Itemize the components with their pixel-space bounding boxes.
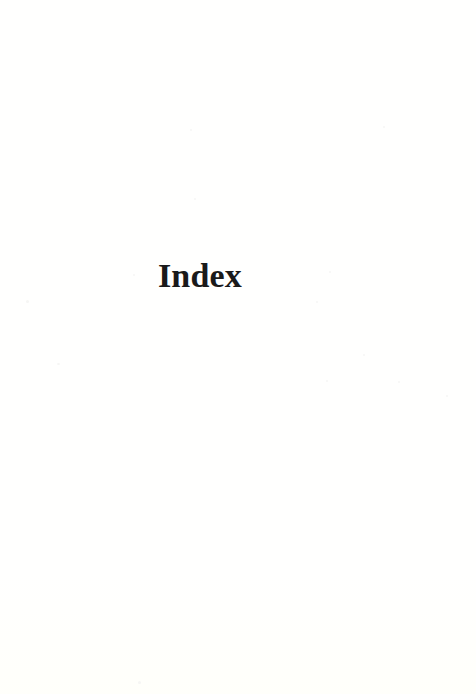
- scan-speck: [194, 198, 196, 200]
- scan-speck: [138, 681, 141, 684]
- page-title: Index: [158, 261, 242, 291]
- scan-speck: [57, 363, 60, 365]
- scan-speck: [383, 126, 385, 128]
- scan-speck: [446, 395, 448, 397]
- page-title-block: Index: [0, 238, 476, 314]
- scan-speck: [190, 129, 192, 131]
- scan-speck: [326, 380, 328, 382]
- scan-speck: [398, 381, 400, 383]
- paper-tint-overlay: [0, 574, 476, 694]
- scanned-page: Index: [0, 0, 476, 694]
- scan-speck: [363, 354, 365, 356]
